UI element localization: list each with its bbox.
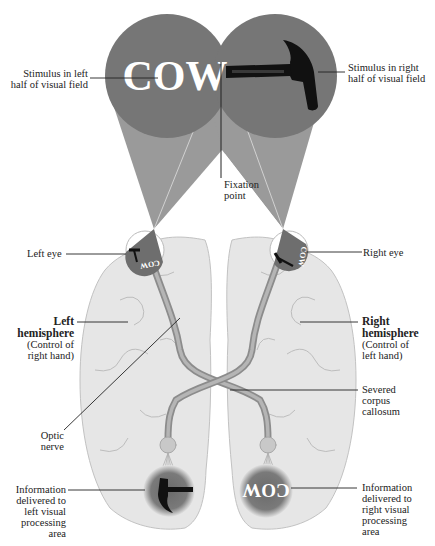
right-processing-area: COW (239, 464, 293, 518)
label-line: left visual (4, 506, 66, 517)
split-brain-diagram: COW (0, 0, 435, 546)
label-line: corpus (362, 395, 400, 406)
label-line: hemisphere (362, 327, 434, 339)
label-line: Optic (20, 430, 64, 441)
label-info-right: Information delivered to right visual pr… (362, 482, 412, 537)
mirrored-cow-word: COW (242, 480, 290, 501)
label-line: hemisphere (4, 327, 74, 339)
label-line: left hand) (362, 350, 434, 361)
label-line: Information (4, 484, 66, 495)
label-line: area (362, 526, 412, 537)
label-left-hemisphere: Left hemisphere (Control of right hand) (4, 315, 74, 361)
label-line: half of visual field (348, 73, 435, 84)
label-line: Stimulus in left (6, 68, 88, 79)
stimulus-word-cow: COW (123, 53, 228, 99)
label-line: nerve (20, 441, 64, 452)
label-line: processing (362, 515, 412, 526)
label-line: right visual (362, 504, 412, 515)
label-optic-nerve: Optic nerve (20, 430, 64, 452)
label-line: (Control of (362, 339, 434, 350)
label-line: delivered to (362, 493, 412, 504)
label-line: (Control of (4, 339, 74, 350)
label-fixation-point: Fixation point (224, 179, 259, 201)
label-line: callosum (362, 406, 400, 417)
right-eye: COW (270, 229, 309, 271)
label-stimulus-right: Stimulus in right half of visual field (348, 62, 435, 84)
label-line: Right (362, 315, 434, 327)
label-line: Right eye (363, 247, 404, 258)
label-line: Fixation (224, 179, 259, 190)
label-right-hemisphere: Right hemisphere (Control of left hand) (362, 315, 434, 361)
label-line: area (4, 528, 66, 539)
label-stimulus-left: Stimulus in left half of visual field (6, 68, 88, 90)
label-line: Severed (362, 384, 400, 395)
label-line: Stimulus in right (348, 62, 435, 73)
label-line: right hand) (4, 350, 74, 361)
label-line: point (224, 190, 259, 201)
label-line: delivered to (4, 495, 66, 506)
left-processing-area (143, 465, 195, 517)
label-severed-corpus-callosum: Severed corpus callosum (362, 384, 400, 417)
label-line: Left (4, 315, 74, 327)
label-line: half of visual field (6, 79, 88, 90)
label-line: Left eye (27, 248, 62, 259)
label-left-eye: Left eye (27, 248, 62, 259)
label-info-left: Information delivered to left visual pro… (4, 484, 66, 539)
label-line: processing (4, 517, 66, 528)
left-eye: COW (125, 229, 164, 276)
label-right-eye: Right eye (363, 247, 404, 258)
label-line: Information (362, 482, 412, 493)
